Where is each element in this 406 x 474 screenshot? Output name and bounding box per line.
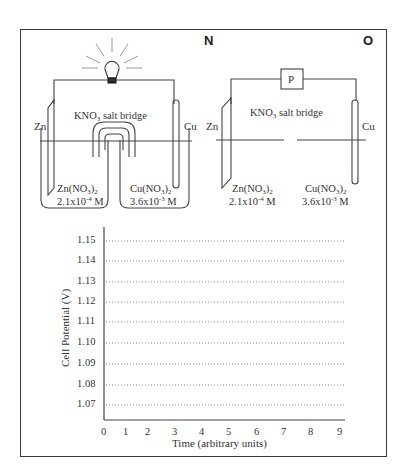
x-tick: 3 <box>172 426 177 437</box>
svg-text:Cu(NO3)2: Cu(NO3)2 <box>305 183 347 196</box>
y-tick: 1.10 <box>77 336 95 347</box>
chart-axes <box>104 227 345 420</box>
x-tick: 5 <box>226 426 231 437</box>
x-tick: 2 <box>145 426 150 437</box>
svg-text:Cu(NO3)2: Cu(NO3)2 <box>130 183 172 196</box>
x-tick: 7 <box>281 426 286 437</box>
svg-text:2.1x10-4 M: 2.1x10-4 M <box>57 195 104 207</box>
svg-text:2.1x10-4 M: 2.1x10-4 M <box>229 195 276 207</box>
y-tick: 1.08 <box>77 378 95 389</box>
svg-text:Zn(NO3)2: Zn(NO3)2 <box>57 183 98 196</box>
x-axis-label: Time (arbitrary units) <box>172 437 267 449</box>
y-tick: 1.13 <box>77 275 95 286</box>
salt-bridge-label-left: KNO3 salt bridge <box>74 110 147 123</box>
y-tick: 1.15 <box>77 234 95 245</box>
x-tick: 4 <box>199 426 204 437</box>
y-tick: 1.09 <box>77 357 95 368</box>
svg-text:KNO3 salt bridge: KNO3 salt bridge <box>250 107 323 120</box>
x-tick: 1 <box>123 426 128 437</box>
chart-gridlines <box>106 241 346 405</box>
y-tick: 1.07 <box>77 398 95 409</box>
lightbulb-icon <box>82 38 142 68</box>
device-p-label: P <box>288 73 294 85</box>
electrochemical-cells-diagram: Zn Cu KNO3 salt bridge Zn(NO3)2 2.1x10-4… <box>0 0 406 474</box>
y-axis-label: Cell Potential (V) <box>59 281 71 375</box>
svg-text:3.6x10-3 M: 3.6x10-3 M <box>302 195 349 207</box>
x-tick: 6 <box>254 426 259 437</box>
svg-text:Zn: Zn <box>206 120 219 132</box>
zn-label-left: Zn <box>34 120 47 132</box>
x-tick: 0 <box>101 426 106 437</box>
svg-text:3.6x10-3 M: 3.6x10-3 M <box>130 195 177 207</box>
svg-text:Zn(NO3)2: Zn(NO3)2 <box>232 183 273 196</box>
x-tick: 8 <box>308 426 313 437</box>
y-tick: 1.11 <box>77 315 95 326</box>
svg-text:Cu: Cu <box>362 120 375 132</box>
x-tick: 9 <box>337 426 342 437</box>
cu-label-left: Cu <box>184 120 197 132</box>
y-tick: 1.14 <box>77 254 95 265</box>
y-tick: 1.12 <box>77 295 95 306</box>
